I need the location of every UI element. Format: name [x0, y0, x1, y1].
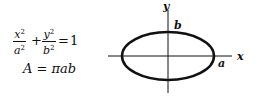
ellipse-diagram [0, 0, 257, 99]
x-axis-label: x [237, 51, 244, 62]
ellipse-figure: x2 a2 + y2 b2 = 1 A = πab y b a x [0, 0, 257, 99]
y-axis-label: y [163, 1, 169, 12]
b-label: b [174, 20, 182, 31]
a-label: a [218, 58, 225, 69]
